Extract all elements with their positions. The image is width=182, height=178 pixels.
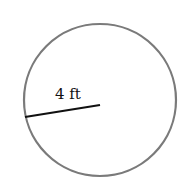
circle-outline [24, 24, 176, 176]
circle-diagram: 4 ft [0, 0, 182, 178]
radius-line [25, 105, 100, 117]
radius-label: 4 ft [55, 85, 81, 103]
